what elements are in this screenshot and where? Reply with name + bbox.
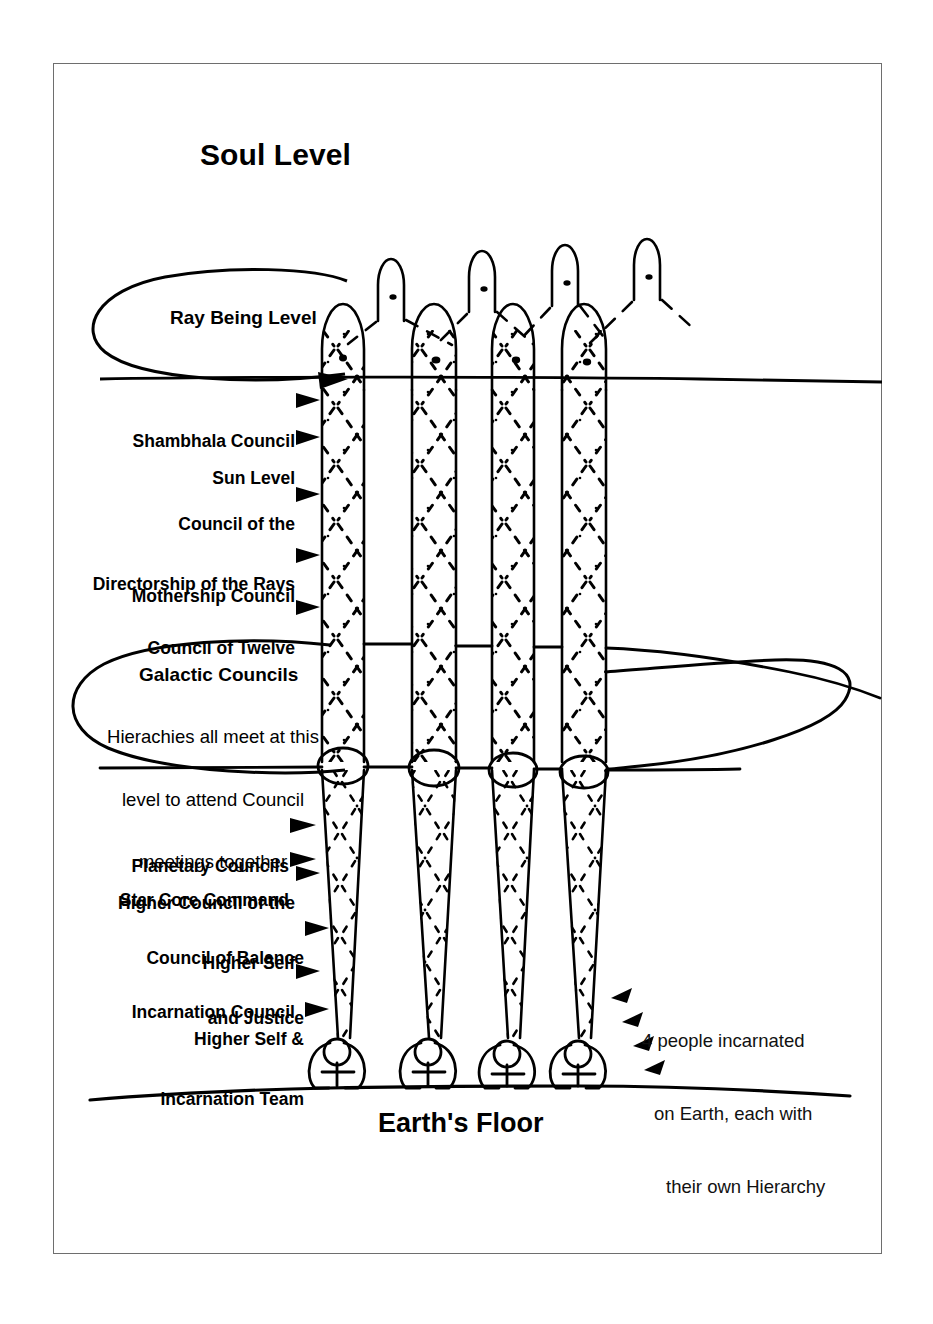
incarnated-people — [309, 1039, 606, 1088]
ray-being-figures — [378, 239, 660, 321]
note-line-3: their own Hierarchy — [666, 1175, 825, 1199]
level-line: Council of the — [93, 514, 295, 534]
column-textures — [300, 330, 630, 1046]
ray-being-eyes — [389, 274, 652, 300]
diagram-page: Soul Level Ray Being Level Galactic Coun… — [0, 0, 933, 1324]
earth-floor-label: Earth's Floor — [378, 1108, 543, 1138]
page-title: Soul Level — [200, 138, 351, 172]
level-line: Higher Self & — [160, 1029, 304, 1049]
column-dome-eyes — [339, 355, 591, 366]
level-label-higher-self-incarnation-team: Higher Self & Incarnation Team — [160, 988, 304, 1150]
galactic-body-line-1: Hierachies all meet at this — [88, 727, 338, 748]
galactic-body-line-2: level to attend Council — [88, 790, 338, 811]
ray-being-level-label: Ray Being Level — [170, 307, 317, 328]
level-label-council-of-twelve: Council of Twelve — [148, 597, 295, 698]
level-line: Council of Twelve — [148, 638, 295, 658]
note-line-2: on Earth, each with — [654, 1102, 825, 1126]
level-line: Incarnation Team — [160, 1089, 304, 1109]
diagram-stage: Soul Level Ray Being Level Galactic Coun… — [0, 0, 933, 1324]
incarnation-note: 4 people incarnated on Earth, each with … — [642, 980, 825, 1248]
note-line-1: 4 people incarnated — [642, 1029, 825, 1053]
